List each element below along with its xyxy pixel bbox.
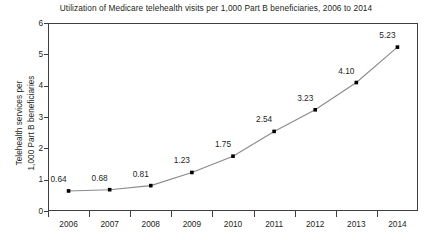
data-point-label: 0.68 [77, 174, 123, 183]
data-point-marker [108, 188, 112, 192]
data-point-marker [313, 108, 317, 112]
data-point-label: 1.23 [159, 156, 205, 165]
data-point-label: 0.64 [36, 175, 82, 184]
data-point-marker [67, 189, 71, 193]
data-point-label: 4.10 [323, 67, 369, 76]
data-point-marker [355, 81, 359, 85]
data-point-label: 1.75 [200, 140, 246, 149]
data-point-label: 0.81 [118, 170, 164, 179]
data-point-label: 5.23 [364, 31, 410, 40]
data-point-marker [231, 154, 235, 158]
data-point-marker [149, 184, 153, 188]
data-point-label: 3.23 [282, 94, 328, 103]
data-point-marker [396, 45, 400, 49]
chart-figure: Utilization of Medicare telehealth visit… [0, 0, 432, 240]
data-point-label: 2.54 [241, 115, 287, 124]
data-point-marker [272, 130, 276, 134]
data-point-marker [190, 171, 194, 175]
